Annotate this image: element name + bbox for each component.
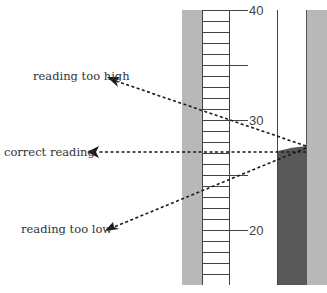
scale-label-20: 20 — [249, 223, 263, 238]
scale-label-40: 40 — [249, 3, 263, 18]
label-correct: correct reading — [4, 145, 95, 159]
label-too-high: reading too high — [33, 69, 130, 83]
liquid-column — [278, 146, 306, 285]
right-wall — [306, 10, 327, 285]
ruler-strip — [202, 10, 230, 285]
parallax-diagram: 40 30 20 reading too high correct readin… — [0, 0, 327, 293]
label-too-low: reading too low — [21, 222, 112, 236]
left-wall — [182, 10, 202, 285]
scale-label-30: 30 — [249, 113, 263, 128]
